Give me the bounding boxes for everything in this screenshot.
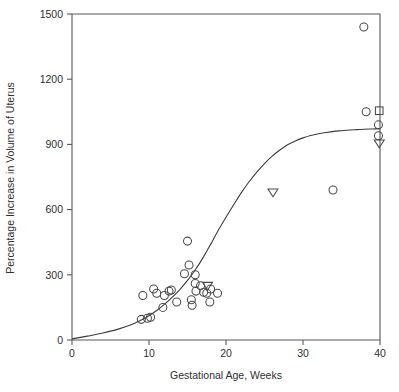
y-axis-ticks: [67, 14, 72, 340]
data-point-circle: [192, 287, 200, 295]
x-tick-label: 0: [69, 347, 75, 359]
x-tick-label: 40: [374, 347, 386, 359]
y-tick-label: 0: [57, 334, 63, 346]
data-point-triangle: [268, 189, 278, 197]
x-tick-label: 20: [220, 347, 232, 359]
y-axis-tick-labels: 030060090012001500: [40, 8, 64, 346]
data-point-circle: [191, 279, 199, 287]
x-tick-label: 10: [143, 347, 155, 359]
fit-curve: [72, 129, 380, 339]
x-axis-ticks: [72, 340, 380, 345]
y-tick-label: 1200: [40, 73, 64, 85]
scatter-chart: 030060090012001500 010203040 Gestational…: [0, 0, 399, 392]
data-point-circle: [374, 132, 382, 140]
data-point-circle: [160, 291, 168, 299]
data-point-circle: [180, 270, 188, 278]
data-markers: [137, 23, 384, 323]
x-tick-label: 30: [297, 347, 309, 359]
x-axis-tick-labels: 010203040: [69, 347, 386, 359]
plot-frame: [72, 14, 380, 340]
data-point-circle: [185, 261, 193, 269]
data-point-circle: [206, 298, 214, 306]
chart-canvas: 030060090012001500 010203040 Gestational…: [0, 0, 399, 392]
x-axis-title: Gestational Age, Weeks: [170, 369, 282, 381]
y-tick-label: 300: [45, 269, 63, 281]
data-point-circle: [184, 237, 192, 245]
data-point-circle: [329, 186, 337, 194]
data-point-triangle: [374, 140, 384, 148]
data-point-circle: [214, 289, 222, 297]
data-point-circle: [360, 23, 368, 31]
y-axis-title: Percentage Increase in Volume of Uterus: [4, 82, 16, 273]
y-tick-label: 900: [45, 138, 63, 150]
y-tick-label: 600: [45, 203, 63, 215]
y-tick-label: 1500: [40, 8, 64, 20]
data-point-circle: [188, 301, 196, 309]
data-point-circle: [139, 291, 147, 299]
data-point-circle: [173, 298, 181, 306]
data-point-circle: [362, 108, 370, 116]
fit-curve-path: [72, 129, 380, 339]
data-point-circle: [374, 121, 382, 129]
data-point-square: [375, 107, 383, 115]
